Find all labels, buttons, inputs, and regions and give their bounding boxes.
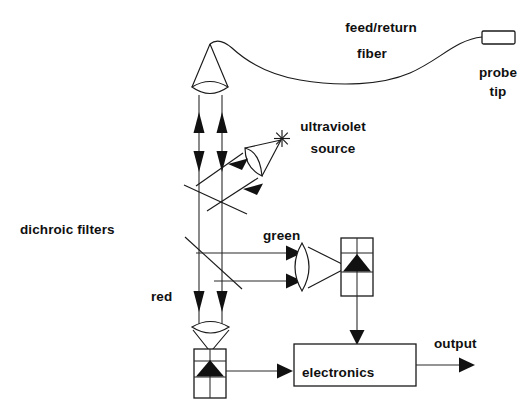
green-detector	[341, 238, 373, 296]
probe-tip-rect	[482, 31, 515, 44]
green-focusing-lens	[295, 243, 309, 291]
uv-condenser-lens	[245, 148, 262, 176]
upper-dichroic-filter	[184, 185, 247, 214]
optical-schematic-canvas: feed/return fiber probe tip dichroic fil…	[0, 0, 532, 414]
ultraviolet-source-label-line1: ultraviolet	[300, 119, 366, 134]
electronics-label: electronics	[302, 365, 374, 380]
down-arrow-left-lower	[194, 291, 205, 312]
down-arrow-left-upper	[194, 151, 205, 172]
optical-schematic-figure: feed/return fiber probe tip dichroic fil…	[0, 0, 532, 414]
collimating-cone	[192, 44, 228, 87]
dichroic-filters-label: dichroic filters	[20, 222, 115, 237]
collimating-lens	[192, 82, 228, 94]
ultraviolet-source-star	[274, 130, 290, 147]
feed-return-fiber-label-line2: fiber	[357, 46, 387, 61]
output-arrowhead	[459, 358, 475, 373]
up-arrow-left	[194, 112, 205, 133]
ultraviolet-source-label-line2: source	[311, 141, 356, 156]
probe-tip-label-line2: tip	[490, 84, 507, 99]
red-focusing-lens	[192, 322, 229, 334]
red-detector-signal-arrowhead	[277, 364, 293, 379]
uv-ray-lower	[207, 178, 258, 211]
feed-return-fiber-label-line1: feed/return	[345, 20, 417, 35]
green-detector-signal-arrowhead	[350, 330, 365, 345]
red-label: red	[151, 289, 172, 304]
output-label: output	[434, 336, 477, 351]
probe-tip-label-line1: probe	[479, 65, 517, 80]
red-detector	[194, 349, 226, 398]
uv-ray-upper-arrowhead	[228, 159, 248, 171]
up-arrow-right	[217, 112, 228, 133]
down-arrow-right-lower	[217, 291, 228, 312]
feed-return-fiber-curve	[210, 37, 482, 84]
down-arrow-right-upper	[217, 151, 228, 172]
green-label: green	[263, 228, 300, 243]
